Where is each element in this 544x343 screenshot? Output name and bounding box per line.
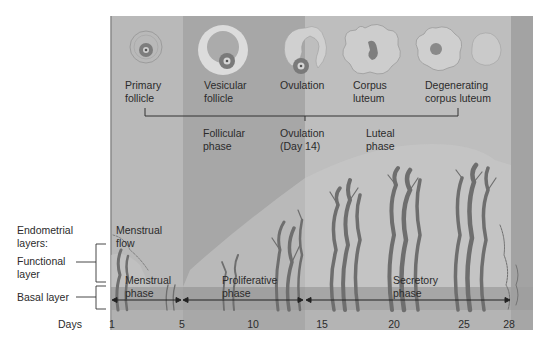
days-axis-label: Days bbox=[58, 318, 82, 331]
label-line: Primary bbox=[125, 79, 161, 92]
label-line: Ovulation bbox=[280, 127, 324, 140]
endometrial-layers-label: Endometrial layers: bbox=[17, 224, 73, 249]
stage-label-vesicular-follicle: Vesicular follicle bbox=[204, 79, 247, 104]
label-line: Functional bbox=[17, 255, 65, 268]
functional-layer-label: Functional layer bbox=[17, 255, 65, 280]
label-line: Ovulation bbox=[280, 79, 324, 92]
label-line: layers: bbox=[17, 237, 73, 250]
day-tick: 25 bbox=[456, 318, 472, 331]
uterine-phase-proliferative: Proliferative phase bbox=[222, 274, 277, 299]
label-line: layer bbox=[17, 268, 65, 281]
label-line: follicle bbox=[204, 92, 247, 105]
day-tick: 28 bbox=[501, 318, 517, 331]
label-line: (Day 14) bbox=[280, 140, 324, 153]
phase-label-follicular: Follicular phase bbox=[203, 127, 245, 152]
vesicular-follicle-icon bbox=[198, 25, 248, 75]
label-line: luteum bbox=[353, 92, 387, 105]
day-tick: 20 bbox=[386, 318, 402, 331]
uterine-phase-menstrual: Menstrual phase bbox=[125, 274, 171, 299]
layer-brackets bbox=[76, 244, 106, 309]
label-line: Follicular bbox=[203, 127, 245, 140]
stage-label-ovulation: Ovulation bbox=[280, 79, 324, 92]
label-line: Proliferative bbox=[222, 274, 277, 287]
label-line: phase bbox=[366, 140, 395, 153]
day-tick: 10 bbox=[245, 318, 261, 331]
right-edge-band bbox=[511, 16, 533, 330]
stage-label-primary-follicle: Primary follicle bbox=[125, 79, 161, 104]
phase-label-ovulation: Ovulation (Day 14) bbox=[280, 127, 324, 152]
menstrual-flow-label: Menstrual flow bbox=[116, 224, 162, 249]
stage-label-degenerating-corpus-luteum: Degenerating corpus luteum bbox=[425, 79, 491, 104]
label-line: Luteal bbox=[366, 127, 395, 140]
label-line: Degenerating bbox=[425, 79, 491, 92]
stage-label-corpus-luteum: Corpus luteum bbox=[353, 79, 387, 104]
label-line: Corpus bbox=[353, 79, 387, 92]
phase-label-luteal: Luteal phase bbox=[366, 127, 395, 152]
label-line: phase bbox=[203, 140, 245, 153]
label-line: corpus luteum bbox=[425, 92, 491, 105]
uterine-phase-secretory: Secretory phase bbox=[393, 274, 438, 299]
label-line: Vesicular bbox=[204, 79, 247, 92]
day-tick: 1 bbox=[106, 318, 118, 331]
label-line: phase bbox=[125, 287, 171, 300]
label-line: Menstrual bbox=[125, 274, 171, 287]
label-line: phase bbox=[393, 287, 438, 300]
label-line: Secretory bbox=[393, 274, 438, 287]
day-tick: 15 bbox=[314, 318, 330, 331]
basal-layer-label: Basal layer bbox=[17, 291, 69, 304]
label-line: flow bbox=[116, 237, 162, 250]
day-tick: 5 bbox=[176, 318, 188, 331]
corpus-luteum-icon bbox=[343, 24, 401, 74]
label-line: Endometrial bbox=[17, 224, 73, 237]
label-line: phase bbox=[222, 287, 277, 300]
label-line: Basal layer bbox=[17, 291, 69, 304]
label-line: Menstrual bbox=[116, 224, 162, 237]
label-line: follicle bbox=[125, 92, 161, 105]
